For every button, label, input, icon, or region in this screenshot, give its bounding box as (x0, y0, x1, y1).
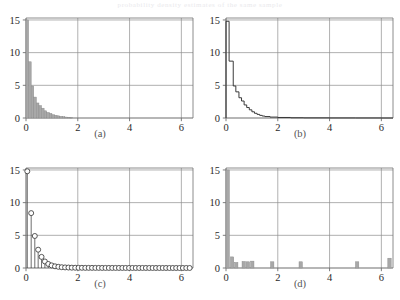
y-tick-label: 10 (10, 197, 21, 208)
histogram-bar (355, 262, 358, 268)
histogram-bar (26, 20, 29, 118)
histogram-bar (60, 116, 63, 118)
panel-b-stepline (226, 21, 393, 118)
y-tick-label: 5 (15, 230, 20, 241)
caption-d: (d) (200, 278, 400, 289)
histogram-bar (65, 117, 68, 118)
panel-c-frame (23, 168, 193, 271)
y-tick-label: 0 (215, 263, 220, 274)
caption-c: (c) (0, 278, 200, 289)
histogram-bar (246, 262, 249, 268)
histogram-bar (70, 118, 73, 119)
y-tick-label: 0 (15, 263, 20, 274)
histogram-bar (39, 106, 42, 118)
histogram-bar (49, 113, 52, 118)
stem-marker (36, 247, 41, 252)
y-tick-label: 15 (10, 165, 21, 176)
histogram-bar (29, 62, 32, 118)
y-tick-label: 10 (10, 47, 21, 58)
caption-b: (b) (200, 128, 400, 139)
panel-a-bars (26, 20, 73, 118)
y-tick-label: 5 (15, 80, 20, 91)
histogram-bar (36, 103, 39, 118)
panel-a-frame (23, 18, 193, 121)
y-tick-label: 15 (210, 15, 221, 26)
histogram-bar (67, 117, 70, 118)
panel-a-gridlines (26, 18, 193, 118)
histogram-bar (62, 117, 65, 118)
histogram-bar (54, 115, 57, 118)
histogram-bar (235, 262, 238, 268)
histogram-bar (31, 86, 34, 118)
panel-d-bars (226, 170, 391, 268)
panel-c-ticklabels: 0246051015 (10, 165, 184, 283)
panel-c-gridlines (26, 168, 193, 268)
panel-b-frame (223, 18, 393, 121)
panel-b-ticklabels: 0246051015 (210, 15, 384, 133)
panel-d-gridlines (226, 168, 393, 268)
y-tick-label: 0 (215, 113, 220, 124)
histogram-bar (299, 262, 302, 268)
caption-a: (a) (0, 128, 200, 139)
histogram-bar (34, 97, 37, 118)
y-tick-label: 10 (210, 197, 221, 208)
panel-d-frame (223, 168, 393, 271)
y-tick-label: 0 (15, 113, 20, 124)
histogram-bar (47, 112, 50, 118)
histogram-bar (271, 262, 274, 268)
stem-marker (29, 211, 34, 216)
histogram-bar (57, 116, 60, 118)
panel-c-markers (25, 169, 192, 271)
histogram-bar (388, 258, 391, 268)
four-panel-figure: probability density estimates of the sam… (0, 0, 400, 300)
y-tick-label: 15 (10, 15, 21, 26)
stem-marker (25, 169, 30, 174)
panel-c-stems (27, 171, 189, 268)
y-tick-label: 5 (215, 230, 220, 241)
histogram-bar (226, 170, 229, 268)
stem-marker (39, 254, 44, 259)
stem-marker (187, 265, 192, 270)
histogram-bar (52, 115, 55, 118)
histogram-bar (251, 261, 254, 268)
y-tick-label: 5 (215, 80, 220, 91)
histogram-bar (42, 108, 45, 118)
histogram-bar (230, 257, 233, 268)
histogram-bar (44, 111, 47, 118)
histogram-bar (242, 261, 245, 268)
panel-b-gridlines (226, 18, 393, 118)
stem-marker (32, 233, 37, 238)
y-tick-label: 10 (210, 47, 221, 58)
step-curve (226, 21, 393, 118)
y-tick-label: 15 (210, 165, 221, 176)
